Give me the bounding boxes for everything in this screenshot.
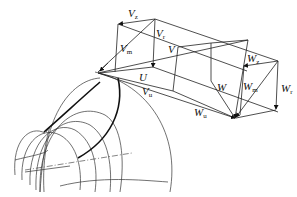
velocity-box (98, 19, 278, 118)
label-vz: Vz (128, 7, 138, 21)
velocity-diagram: Vz Vr Vm V U Vu Wz W Wm Wr Wu (0, 0, 297, 197)
label-vr: Vr (156, 27, 166, 41)
labels: Vz Vr Vm V U Vu Wz W Wm Wr Wu (120, 7, 293, 120)
vm-arrow (100, 63, 108, 71)
blade-curve (78, 78, 120, 158)
wr-arrow (276, 61, 278, 109)
label-vu: Vu (142, 85, 153, 99)
label-wr: Wr (281, 82, 293, 96)
label-wm: Wm (243, 80, 258, 94)
wu-arrow (98, 73, 235, 118)
label-vm: Vm (120, 42, 133, 56)
label-w: W (217, 81, 227, 93)
vr-arrow (153, 19, 155, 67)
label-u: U (139, 71, 148, 83)
